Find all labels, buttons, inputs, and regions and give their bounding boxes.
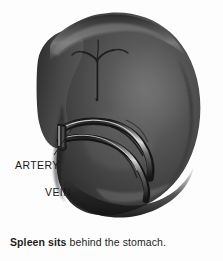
caption-rest-text: behind the stomach. xyxy=(67,236,166,248)
label-vein: VEIN xyxy=(45,186,71,198)
caption-bold-text: Spleen sits xyxy=(10,236,67,248)
figure-caption: Spleen sits behind the stomach. xyxy=(10,236,166,248)
label-artery: ARTERY xyxy=(15,159,60,171)
spleen-figure: ARTERY VEIN Spleen sits behind the stoma… xyxy=(0,0,223,261)
spleen-illustration xyxy=(0,0,223,232)
